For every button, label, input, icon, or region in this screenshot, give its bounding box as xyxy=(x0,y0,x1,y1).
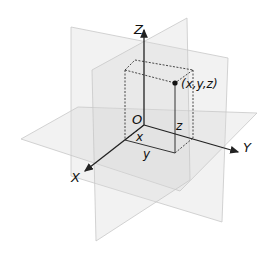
z-axis-label: Z xyxy=(133,22,144,37)
y-component-label: y xyxy=(142,147,151,161)
z-component-label: z xyxy=(175,119,183,133)
y-axis-label: Y xyxy=(243,140,252,155)
x-component-label: x xyxy=(135,130,144,144)
x-axis-label: X xyxy=(70,170,81,185)
point-label: (x,y,z) xyxy=(181,77,218,91)
coordinate-diagram: Z Y X O (x,y,z) z x y xyxy=(0,0,271,257)
point-marker xyxy=(172,80,177,85)
origin-label: O xyxy=(132,112,142,127)
